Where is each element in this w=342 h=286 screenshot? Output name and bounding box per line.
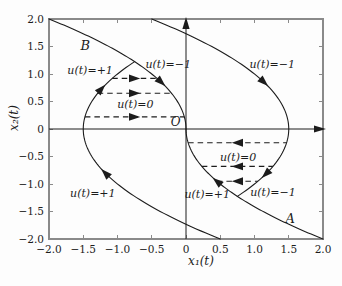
x-tick-label: 1.5 [280, 243, 297, 255]
x-tick-label: 1.0 [246, 243, 263, 255]
coast-arrow-left [232, 139, 243, 147]
y-tick-label: −2.0 [19, 233, 45, 245]
x-tick-label: −1.0 [105, 243, 131, 255]
x-tick-label: −1.5 [71, 243, 97, 255]
label-u-zero-lower: u(t)=0 [220, 151, 256, 164]
x-axis-label: x₁(t) [161, 254, 241, 268]
y-tick-label: −1.0 [19, 178, 45, 190]
label-u-plus-lower-left: u(t)=+1 [70, 187, 116, 200]
phase-plane-figure: −2.0−1.5−1.0−0.500.51.01.52.0−2.0−1.5−1.… [0, 0, 342, 286]
label-curve-A: A [284, 211, 294, 226]
y-axis-label: x₂(t) [7, 86, 23, 150]
y-tick-label: 0 [37, 123, 44, 135]
phase-plane-plot: −2.0−1.5−1.0−0.500.51.01.52.0−2.0−1.5−1.… [0, 0, 342, 286]
y-tick-label: 1.0 [27, 68, 44, 80]
x-axis-arrow [314, 125, 326, 132]
label-u-minus-lower-right: u(t)=−1 [250, 186, 296, 199]
coast-arrow-right [129, 113, 140, 121]
y-tick-label: −1.5 [19, 205, 45, 217]
switching-curve-A-arrow [213, 178, 224, 188]
y-tick-label: 1.5 [27, 40, 44, 52]
trajectory-u-plus-1-arrow [95, 85, 105, 96]
label-u-minus-upper-right: u(t)=−1 [250, 58, 296, 71]
y-tick-label: 2.0 [27, 13, 44, 25]
label-u-zero-upper: u(t)=0 [117, 98, 153, 111]
label-origin: O [171, 115, 181, 129]
coast-arrow-right [129, 89, 140, 97]
coast-arrow-right [129, 75, 140, 83]
label-u-plus-lower-mid: u(t)=+1 [184, 188, 230, 201]
y-tick-label: 0.5 [27, 95, 44, 107]
y-tick-label: −0.5 [19, 150, 45, 162]
trajectory-u-plus-1 [83, 62, 220, 239]
x-tick-label: 2.0 [315, 243, 332, 255]
label-curve-B: B [80, 38, 91, 53]
coast-arrow-left [232, 177, 243, 185]
label-u-plus-upper-left: u(t)=+1 [67, 64, 113, 77]
label-u-minus-upper-mid: u(t)=−1 [145, 58, 191, 71]
